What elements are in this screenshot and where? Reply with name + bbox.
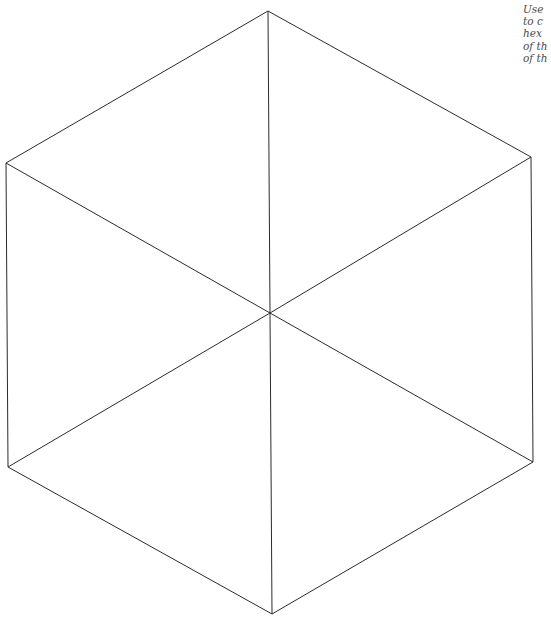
instructions-line: Use xyxy=(523,3,551,15)
hexagon-spokes xyxy=(6,11,533,614)
spoke-upper-right xyxy=(270,157,531,313)
spoke-lower-right xyxy=(270,313,533,462)
spoke-upper-left xyxy=(6,163,270,313)
instructions-line: of th xyxy=(523,52,551,64)
instructions-line: of th xyxy=(523,40,551,52)
instructions-line: hex xyxy=(523,27,551,39)
instructions-line: to c xyxy=(523,15,551,27)
spoke-top xyxy=(268,11,270,313)
spoke-lower-left xyxy=(8,313,270,467)
instructions-text: Use to c hex of th of th xyxy=(523,3,551,64)
spoke-bottom xyxy=(270,313,272,614)
